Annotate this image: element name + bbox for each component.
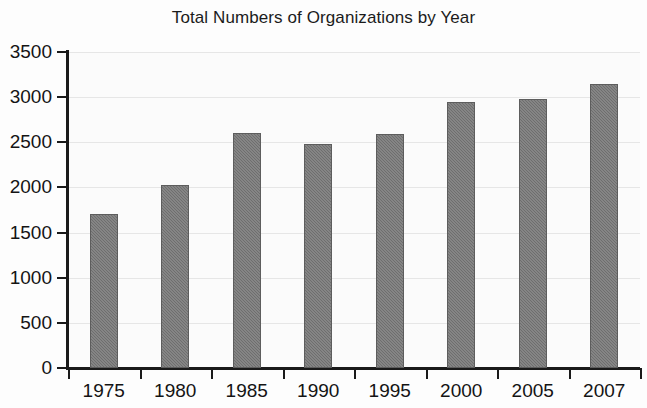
x-axis-tick-label: 1975 <box>68 381 140 400</box>
gridline <box>68 52 640 53</box>
x-axis-tick <box>283 368 285 379</box>
bar-1995 <box>376 134 404 368</box>
y-axis-tick <box>57 51 68 53</box>
x-axis-tick-label: 2000 <box>426 381 498 400</box>
chart-title: Total Numbers of Organizations by Year <box>0 8 647 28</box>
gridline <box>68 187 640 188</box>
y-axis-tick-label: 3000 <box>10 87 52 106</box>
bar-1985 <box>233 133 261 368</box>
gridline <box>68 323 640 324</box>
bar-1980 <box>161 185 189 368</box>
y-axis-tick-label: 2000 <box>10 177 52 196</box>
y-axis-tick-label: 500 <box>20 313 52 332</box>
gridline <box>68 97 640 98</box>
y-axis-tick-label: 1000 <box>10 268 52 287</box>
gridline <box>68 233 640 234</box>
gridline <box>68 142 640 143</box>
x-axis-tick-label: 1990 <box>283 381 355 400</box>
x-axis-tick-label: 1995 <box>354 381 426 400</box>
y-axis-tick-label: 3500 <box>10 42 52 61</box>
bar-chart-figure: Total Numbers of Organizations by Year 0… <box>0 0 647 408</box>
y-axis-tick <box>57 186 68 188</box>
bar-2007 <box>590 84 618 368</box>
plot-area <box>68 52 640 368</box>
y-axis-tick <box>57 277 68 279</box>
bar-1990 <box>304 144 332 368</box>
x-axis-tick-label: 1985 <box>211 381 283 400</box>
x-axis-tick <box>640 368 642 379</box>
x-axis-tick <box>140 368 142 379</box>
x-axis-line <box>66 367 640 370</box>
x-axis-tick <box>68 368 70 379</box>
gridline <box>68 278 640 279</box>
y-axis-tick-label: 1500 <box>10 223 52 242</box>
x-axis-tick-label: 2007 <box>569 381 641 400</box>
y-axis-tick-label: 0 <box>41 358 52 377</box>
x-axis-tick <box>569 368 571 379</box>
y-axis-tick <box>57 232 68 234</box>
bar-2000 <box>447 102 475 368</box>
x-axis-tick-label: 1980 <box>140 381 212 400</box>
x-axis-tick <box>211 368 213 379</box>
x-axis-tick <box>426 368 428 379</box>
y-axis-tick <box>57 96 68 98</box>
bar-2005 <box>519 99 547 368</box>
x-axis-tick-label: 2005 <box>497 381 569 400</box>
x-axis-tick <box>497 368 499 379</box>
y-axis-tick-label: 2500 <box>10 132 52 151</box>
x-axis-tick <box>354 368 356 379</box>
y-axis-tick <box>57 141 68 143</box>
bar-1975 <box>90 214 118 368</box>
y-axis-tick <box>57 322 68 324</box>
y-axis-tick <box>57 367 68 369</box>
